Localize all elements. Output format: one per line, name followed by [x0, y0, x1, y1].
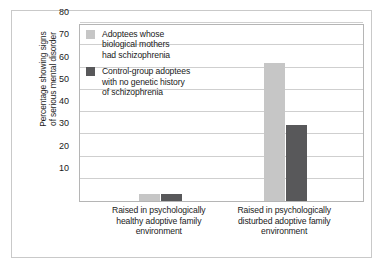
legend-swatch-dark	[86, 67, 95, 76]
chart-card: Percentage showing signs of serious ment…	[11, 10, 372, 258]
bar-group-2	[264, 63, 307, 201]
gridline-80	[80, 22, 363, 23]
gridline-30	[80, 133, 363, 134]
legend-swatch-light	[86, 30, 95, 39]
y-tick-label-30: 30	[29, 118, 69, 128]
legend-item-adoptees-schizophrenic-mothers: Adoptees whose biological mothers had sc…	[86, 29, 296, 60]
y-tick-label-20: 20	[29, 141, 69, 151]
gridline-20	[80, 156, 363, 157]
y-tick-label-10: 10	[29, 163, 69, 173]
gridline-10	[80, 178, 363, 179]
gridline-40	[80, 111, 363, 112]
bar-g1-s1	[139, 194, 160, 201]
legend-label-control-group: Control-group adoptees with no genetic h…	[102, 66, 190, 97]
bar-g1-s2	[161, 194, 182, 201]
y-tick-label-70: 70	[29, 29, 69, 39]
y-tick-label-80: 80	[29, 7, 69, 17]
x-axis-label-1: Raised in psychologically healthy adopti…	[89, 205, 229, 237]
y-tick-label-60: 60	[29, 52, 69, 62]
plot-area: 1020304050607080 Adoptees whose biologic…	[79, 24, 364, 202]
bar-g2-s2	[286, 125, 307, 201]
x-axis-label-2: Raised in psychologically disturbed adop…	[214, 205, 354, 237]
legend-label-adoptees-schizophrenic-mothers: Adoptees whose biological mothers had sc…	[102, 29, 170, 60]
bar-g2-s1	[264, 63, 285, 201]
y-tick-label-40: 40	[29, 96, 69, 106]
y-tick-label-50: 50	[29, 74, 69, 84]
bar-group-1	[139, 194, 182, 201]
